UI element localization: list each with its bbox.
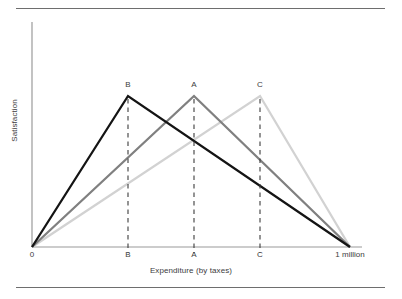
x-tick-label-max: 1 million xyxy=(322,250,378,259)
x-tick-label-c: C xyxy=(253,250,267,259)
series-line-b xyxy=(32,96,350,247)
peak-label-b: B xyxy=(118,80,138,89)
peak-label-a: A xyxy=(184,80,204,89)
peak-label-c: C xyxy=(250,80,270,89)
x-tick-label-b: B xyxy=(121,250,135,259)
y-axis-title: Satisfaction xyxy=(10,81,19,161)
figure-frame: B A C 0 B A C 1 million Satisfaction Exp… xyxy=(0,0,402,299)
x-axis-title: Expenditure (by taxes) xyxy=(32,266,350,275)
x-tick-label-a: A xyxy=(187,250,201,259)
x-tick-label-origin: 0 xyxy=(25,250,39,259)
